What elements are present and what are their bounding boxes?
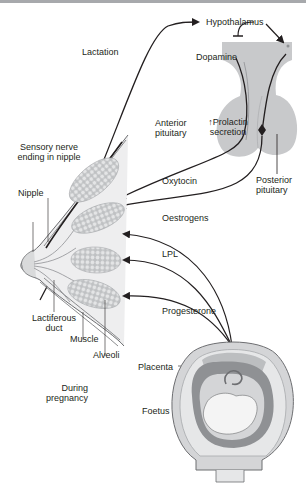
label-placenta: Placenta xyxy=(138,362,173,372)
label-anterior-line1: Anterior xyxy=(155,118,187,128)
label-lpl: LPL xyxy=(162,249,178,259)
label-prolactin-line1: ↑Prolactin xyxy=(196,117,260,127)
label-foetus: Foetus xyxy=(142,406,170,416)
label-oestrogens: Oestrogens xyxy=(162,213,209,223)
label-posterior-pituitary: Posterior pituitary xyxy=(256,175,292,195)
label-prolactin-secretion: ↑Prolactin secretion xyxy=(196,117,260,137)
label-dopamine: Dopamine xyxy=(196,52,237,62)
label-progesterone: Progesterone xyxy=(162,306,216,316)
label-lactiferous-line1: Lactiferous xyxy=(28,313,80,323)
label-sensory-nerve: Sensory nerve ending in nipple xyxy=(14,142,84,162)
label-muscle: Muscle xyxy=(70,334,99,344)
label-during-line1: During xyxy=(44,383,88,393)
label-alveoli: Alveoli xyxy=(93,350,120,360)
label-posterior-line1: Posterior xyxy=(256,175,292,185)
label-hypothalamus: Hypothalamus xyxy=(206,17,264,27)
label-sensory-line2: ending in nipple xyxy=(14,152,84,162)
label-during-line2: pregnancy xyxy=(44,393,88,403)
label-lactation: Lactation xyxy=(82,47,119,57)
label-lactiferous-line2: duct xyxy=(28,323,80,333)
label-posterior-line2: pituitary xyxy=(256,185,292,195)
uterus-illustration xyxy=(172,342,293,482)
label-during-pregnancy: During pregnancy xyxy=(44,383,88,403)
label-sensory-line1: Sensory nerve xyxy=(14,142,84,152)
label-anterior-line2: pituitary xyxy=(155,128,187,138)
label-oxytocin: Oxytocin xyxy=(162,176,197,186)
label-nipple: Nipple xyxy=(18,188,44,198)
label-anterior-pituitary: Anterior pituitary xyxy=(155,118,187,138)
label-lactiferous-duct: Lactiferous duct xyxy=(28,313,80,333)
label-prolactin-line2: secretion xyxy=(196,127,260,137)
